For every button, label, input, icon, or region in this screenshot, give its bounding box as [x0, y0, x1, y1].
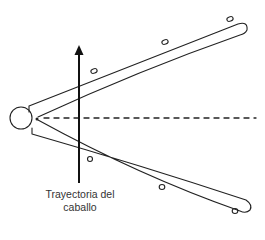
upper-arm: [29, 23, 247, 117]
trajectory-arrow: [75, 45, 84, 183]
trajectory-label: Trayectoria del caballo: [38, 188, 122, 214]
apex-dot: [36, 118, 39, 121]
trajectory-label-line2: caballo: [38, 201, 122, 214]
trajectory-label-line1: Trayectoria del: [38, 188, 122, 201]
